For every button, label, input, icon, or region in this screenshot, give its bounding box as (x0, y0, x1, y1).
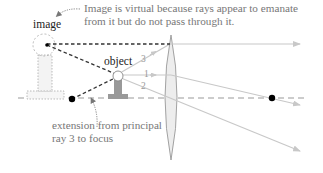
converging-lens (165, 35, 177, 160)
extension-note-line1: extension from principal (52, 119, 162, 132)
object-label: object (104, 56, 132, 68)
virtual-image-note-line2: from it but do not pass through it. (84, 15, 234, 28)
virtual-image-lens-diagram: image object Image is virtual because ra… (0, 0, 323, 173)
virtual-image (27, 34, 64, 99)
virtual-image-note-line1: Image is virtual because rays appear to … (84, 2, 298, 15)
note-pointer-arrow (58, 9, 80, 15)
focal-point-right (269, 95, 275, 101)
ray-1-label: 1 (144, 70, 149, 80)
focal-point-left (69, 96, 75, 102)
image-label: image (33, 19, 61, 31)
ray-3-label: 3 (141, 55, 146, 65)
extension-note-line2: ray 3 to focus (52, 132, 113, 145)
ray-2 (121, 78, 300, 151)
ray-2-label: 2 (141, 82, 146, 92)
image-tip-dot (45, 43, 49, 47)
